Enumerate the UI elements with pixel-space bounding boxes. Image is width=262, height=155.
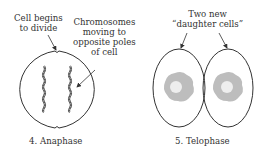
arrow-cell-begins — [48, 35, 56, 50]
arrow-daughter-left — [181, 33, 187, 48]
caption-telophase: 5. Telophase — [175, 136, 230, 146]
label-cell-begins: Cell begins to divide — [14, 13, 63, 33]
label-daughter-cells: Two new “daughter cells” — [172, 9, 243, 29]
anaphase-cell — [20, 51, 95, 128]
label-chromosomes: Chromosomes moving to opposite poles of … — [73, 17, 136, 57]
caption-anaphase: 4. Anaphase — [29, 136, 82, 146]
telophase-cells — [153, 49, 253, 127]
arrow-daughter-right — [219, 33, 227, 48]
